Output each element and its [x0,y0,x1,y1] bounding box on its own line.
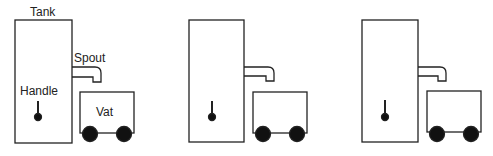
tank [362,20,418,142]
vat-wheel-left [83,127,98,142]
handle-knob [35,114,42,121]
spout [418,67,446,81]
vat-wheel-right [464,127,479,142]
tank [189,20,244,142]
vat-wheel-left [430,127,445,142]
figure-3 [362,20,481,142]
vat-wheel-right [290,127,305,142]
figure-2 [189,20,307,142]
vat-wheel-right [117,127,132,142]
tank [15,20,72,143]
tank-label: Tank [30,5,56,19]
handle-knob [209,114,216,121]
spout [244,67,274,81]
spout-label: Spout [74,51,106,65]
spout [72,67,101,82]
vat-wheel-left [256,127,271,142]
diagram-canvas: Tank Spout Handle Vat [0,0,493,156]
handle-label: Handle [20,84,58,98]
handle-knob [382,114,389,121]
figure-1 [15,20,134,143]
vat-label: Vat [96,105,114,119]
vat [427,91,481,132]
